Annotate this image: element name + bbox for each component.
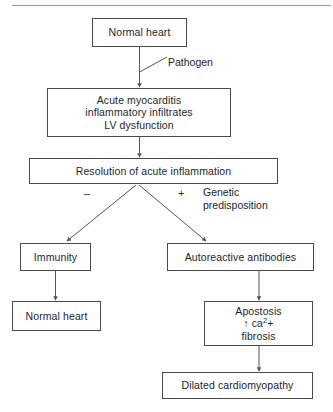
node-apostosis-line1: Apostosis	[235, 305, 281, 318]
flowchart-connectors	[0, 0, 333, 412]
node-resolution-label: Resolution of acute inflammation	[76, 165, 232, 178]
node-acute-myocarditis-line3: LV dysfunction	[104, 119, 174, 132]
branch-sign-plus: +	[178, 188, 184, 199]
edge-label-genetic-predisposition: Genetic predisposition	[203, 186, 268, 211]
node-normal-heart-bottom: Normal heart	[12, 301, 101, 331]
node-acute-myocarditis-line1: Acute myocarditis	[97, 94, 182, 107]
node-acute-myocarditis-line2: inflammatory infiltrates	[85, 106, 192, 119]
edge-label-pathogen: Pathogen	[168, 56, 213, 69]
node-normal-heart-bottom-label: Normal heart	[26, 310, 88, 323]
connector-resolution-to-immunity	[67, 185, 136, 241]
node-dilated-cardiomyopathy: Dilated cardiomyopathy	[162, 372, 313, 399]
node-dilated-cardiomyopathy-label: Dilated cardiomyopathy	[182, 379, 294, 392]
node-apostosis-line2: ↑ ca2+	[243, 317, 273, 330]
connector-resolution-to-autoreactive	[139, 185, 206, 241]
node-acute-myocarditis: Acute myocarditis inflammatory infiltrat…	[47, 88, 231, 137]
branch-sign-minus: –	[84, 188, 90, 199]
pathogen-leader-line	[140, 57, 168, 72]
edge-label-genetic-line2: predisposition	[203, 199, 268, 211]
flowchart-canvas: Normal heart Acute myocarditis inflammat…	[0, 0, 333, 412]
node-apostosis-line2-suffix: +	[267, 317, 273, 329]
node-apostosis-line2-prefix: ↑ ca	[243, 317, 263, 329]
node-apostosis: Apostosis ↑ ca2+ fibrosis	[204, 301, 313, 346]
node-normal-heart-top: Normal heart	[92, 18, 187, 47]
node-resolution-of-acute-inflammation: Resolution of acute inflammation	[29, 158, 278, 184]
node-immunity-label: Immunity	[34, 251, 77, 264]
node-immunity: Immunity	[20, 243, 91, 271]
node-normal-heart-top-label: Normal heart	[109, 26, 171, 39]
node-apostosis-line3: fibrosis	[241, 330, 275, 343]
node-autoreactive-antibodies-label: Autoreactive antibodies	[185, 251, 296, 264]
node-autoreactive-antibodies: Autoreactive antibodies	[167, 243, 314, 271]
edge-label-genetic-line1: Genetic	[203, 186, 239, 198]
